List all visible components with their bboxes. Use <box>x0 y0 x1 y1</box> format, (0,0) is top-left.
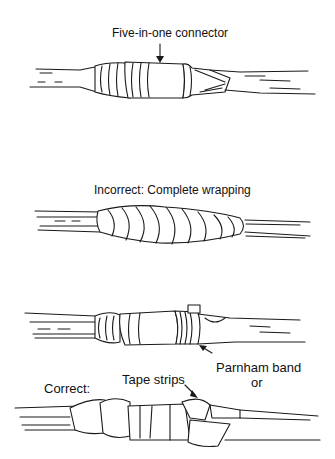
label-five-in-one-connector: Five-in-one connector <box>112 26 228 40</box>
label-parnham-band: Parnham band <box>216 361 301 375</box>
figure-parnham-band <box>25 305 305 353</box>
figure-connector <box>30 44 315 98</box>
label-tape-strips: Tape strips <box>122 373 185 387</box>
label-correct: Correct: <box>44 382 90 396</box>
figure-incorrect-wrapping <box>35 206 310 244</box>
band-clamp <box>188 305 200 313</box>
label-or: or <box>251 376 263 390</box>
arrow-icon <box>199 345 207 351</box>
arrow-icon <box>156 56 164 63</box>
label-incorrect-complete-wrapping: Incorrect: Complete wrapping <box>94 183 251 197</box>
